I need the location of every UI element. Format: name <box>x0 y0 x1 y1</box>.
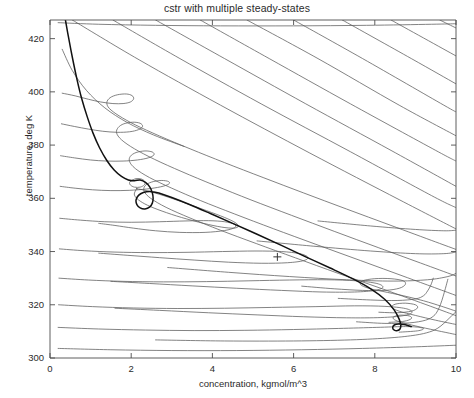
contour-curve <box>342 20 456 84</box>
x-tick-label: 2 <box>116 363 146 374</box>
contour-curve <box>168 268 456 282</box>
contour-lines-group <box>58 20 456 351</box>
y-axis-label: temperature, deg K <box>23 76 34 236</box>
x-tick-label: 6 <box>279 363 309 374</box>
contour-curve <box>58 345 456 350</box>
contour-curve <box>59 249 308 263</box>
contour-curve <box>59 278 383 292</box>
x-tick-label: 10 <box>441 363 471 374</box>
contour-curve <box>59 305 413 318</box>
y-tick-label: 320 <box>10 299 44 310</box>
contour-curve <box>58 327 423 333</box>
x-axis-label: concentration, kgmol/m^3 <box>50 378 456 389</box>
contour-curve <box>156 20 456 186</box>
contour-curve <box>113 20 456 208</box>
contour-curve <box>62 49 184 146</box>
contour-curve <box>294 20 456 112</box>
steady-state-markers-group <box>273 253 281 261</box>
contour-curve <box>62 93 456 249</box>
contour-curve <box>61 151 456 296</box>
plot-canvas <box>0 0 474 398</box>
y-tick-label: 420 <box>10 33 44 44</box>
contour-curve <box>60 218 236 232</box>
contour-curve <box>60 180 456 315</box>
contour-curve <box>318 221 456 231</box>
contour-curve <box>357 279 448 323</box>
contour-curve <box>247 20 456 136</box>
x-tick-label: 4 <box>197 363 227 374</box>
x-tick-label: 8 <box>360 363 390 374</box>
plus-marker-icon <box>273 253 281 261</box>
x-tick-label: 0 <box>35 363 65 374</box>
contour-curve <box>338 278 433 300</box>
contour-curve <box>391 20 456 56</box>
y-tick-label: 300 <box>10 352 44 363</box>
figure-container: cstr with multiple steady-states 0246810… <box>0 0 474 398</box>
y-tick-label: 340 <box>10 246 44 257</box>
